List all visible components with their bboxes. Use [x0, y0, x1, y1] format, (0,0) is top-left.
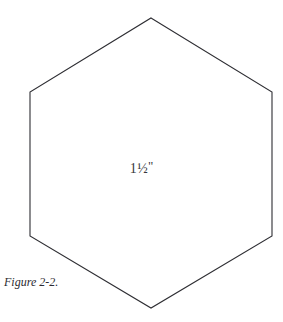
dimension-label: 1½"	[0, 158, 283, 177]
dimension-whole-number: 1	[130, 161, 137, 176]
inch-mark-icon: "	[148, 158, 153, 173]
figure-caption: Figure 2-2.	[4, 275, 58, 289]
dimension-fraction: ½	[137, 161, 148, 176]
